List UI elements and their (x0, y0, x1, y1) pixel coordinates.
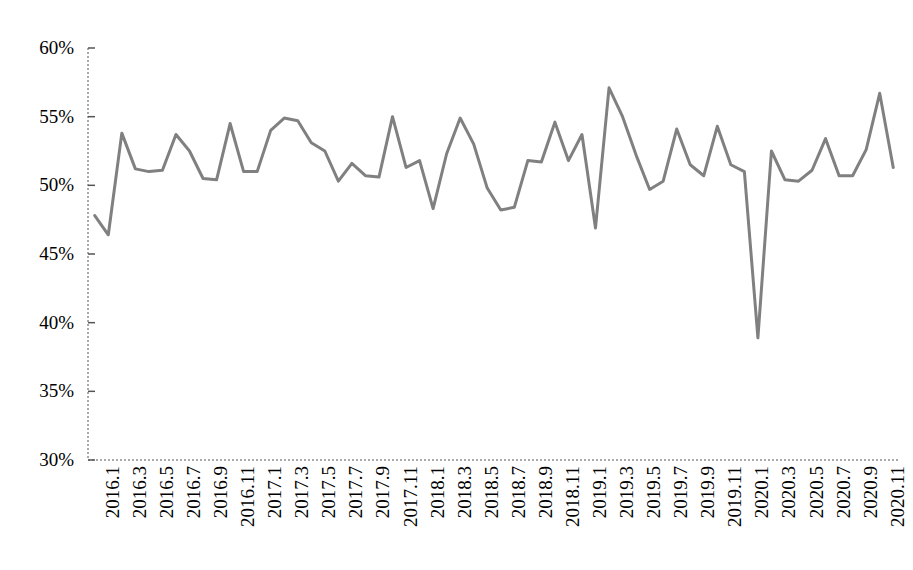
x-tick-label: 2016.11 (237, 466, 259, 527)
x-tick-label: 2020.7 (833, 466, 855, 518)
x-tick-label: 2016.3 (129, 466, 151, 518)
x-tick-label: 2017.9 (372, 466, 394, 518)
x-tick-label: 2018.11 (562, 466, 584, 527)
x-tick-label: 2018.9 (535, 466, 557, 518)
x-tick-label: 2020.3 (778, 466, 800, 518)
y-tick-marks (88, 48, 95, 460)
x-tick-label: 2017.1 (264, 466, 286, 518)
line-chart: 60%55%50%45%40%35%30% 2016.12016.32016.5… (0, 0, 913, 570)
x-tick-label: 2020.11 (887, 466, 909, 527)
x-tick-label: 2016.1 (102, 466, 124, 518)
x-tick-label: 2017.7 (345, 466, 367, 518)
x-tick-label: 2018.7 (508, 466, 530, 518)
x-tick-label: 2018.5 (481, 466, 503, 518)
plot-svg (88, 48, 900, 460)
plot-area (88, 48, 900, 460)
y-tick-label: 35% (39, 380, 74, 402)
axis-lines (88, 48, 900, 460)
x-tick-label: 2016.5 (156, 466, 178, 518)
x-tick-label: 2020.9 (860, 466, 882, 518)
x-tick-label: 2019.3 (616, 466, 638, 518)
x-axis: 2016.12016.32016.52016.72016.92016.11201… (88, 460, 900, 570)
y-tick-label: 60% (39, 37, 74, 59)
x-tick-label: 2017.5 (318, 466, 340, 518)
x-tick-label: 2016.9 (210, 466, 232, 518)
y-tick-label: 50% (39, 174, 74, 196)
x-tick-label: 2017.3 (291, 466, 313, 518)
x-tick-label: 2018.3 (454, 466, 476, 518)
y-axis: 60%55%50%45%40%35%30% (0, 0, 74, 570)
x-tick-label: 2017.11 (400, 466, 422, 527)
x-tick-label: 2020.5 (806, 466, 828, 518)
x-tick-label: 2019.1 (589, 466, 611, 518)
y-tick-label: 40% (39, 312, 74, 334)
x-tick-label: 2019.7 (670, 466, 692, 518)
data-series-line (95, 88, 893, 338)
y-tick-label: 30% (39, 449, 74, 471)
y-tick-label: 45% (39, 243, 74, 265)
x-tick-label: 2018.1 (427, 466, 449, 518)
x-tick-label: 2016.7 (183, 466, 205, 518)
x-tick-label: 2019.9 (697, 466, 719, 518)
x-tick-label: 2020.1 (751, 466, 773, 518)
y-tick-label: 55% (39, 106, 74, 128)
x-tick-label: 2019.11 (724, 466, 746, 527)
x-tick-label: 2019.5 (643, 466, 665, 518)
